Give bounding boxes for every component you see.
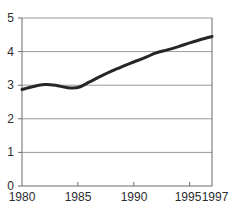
y-axis-tick-label-1: 1	[0, 146, 14, 158]
axis-frame	[22, 18, 212, 186]
y-axis-ticks	[18, 18, 22, 186]
y-axis-tick-label-5: 5	[0, 12, 14, 24]
x-axis-tick-label-1985: 1985	[58, 191, 98, 203]
x-axis-ticks	[78, 182, 190, 186]
x-axis-tick-label-1997: 1997	[196, 191, 234, 203]
y-axis-tick-label-2: 2	[0, 113, 14, 125]
y-axis-tick-label-4: 4	[0, 46, 14, 58]
chart-canvas	[0, 0, 236, 214]
y-axis-tick-label-3: 3	[0, 79, 14, 91]
line-chart: 5 4 3 2 1 0 1980 1985 1990 1995 1997	[0, 0, 236, 214]
data-line-series-0	[22, 36, 212, 89]
x-axis-tick-label-1990: 1990	[114, 191, 154, 203]
x-axis-tick-label-1980: 1980	[2, 191, 42, 203]
